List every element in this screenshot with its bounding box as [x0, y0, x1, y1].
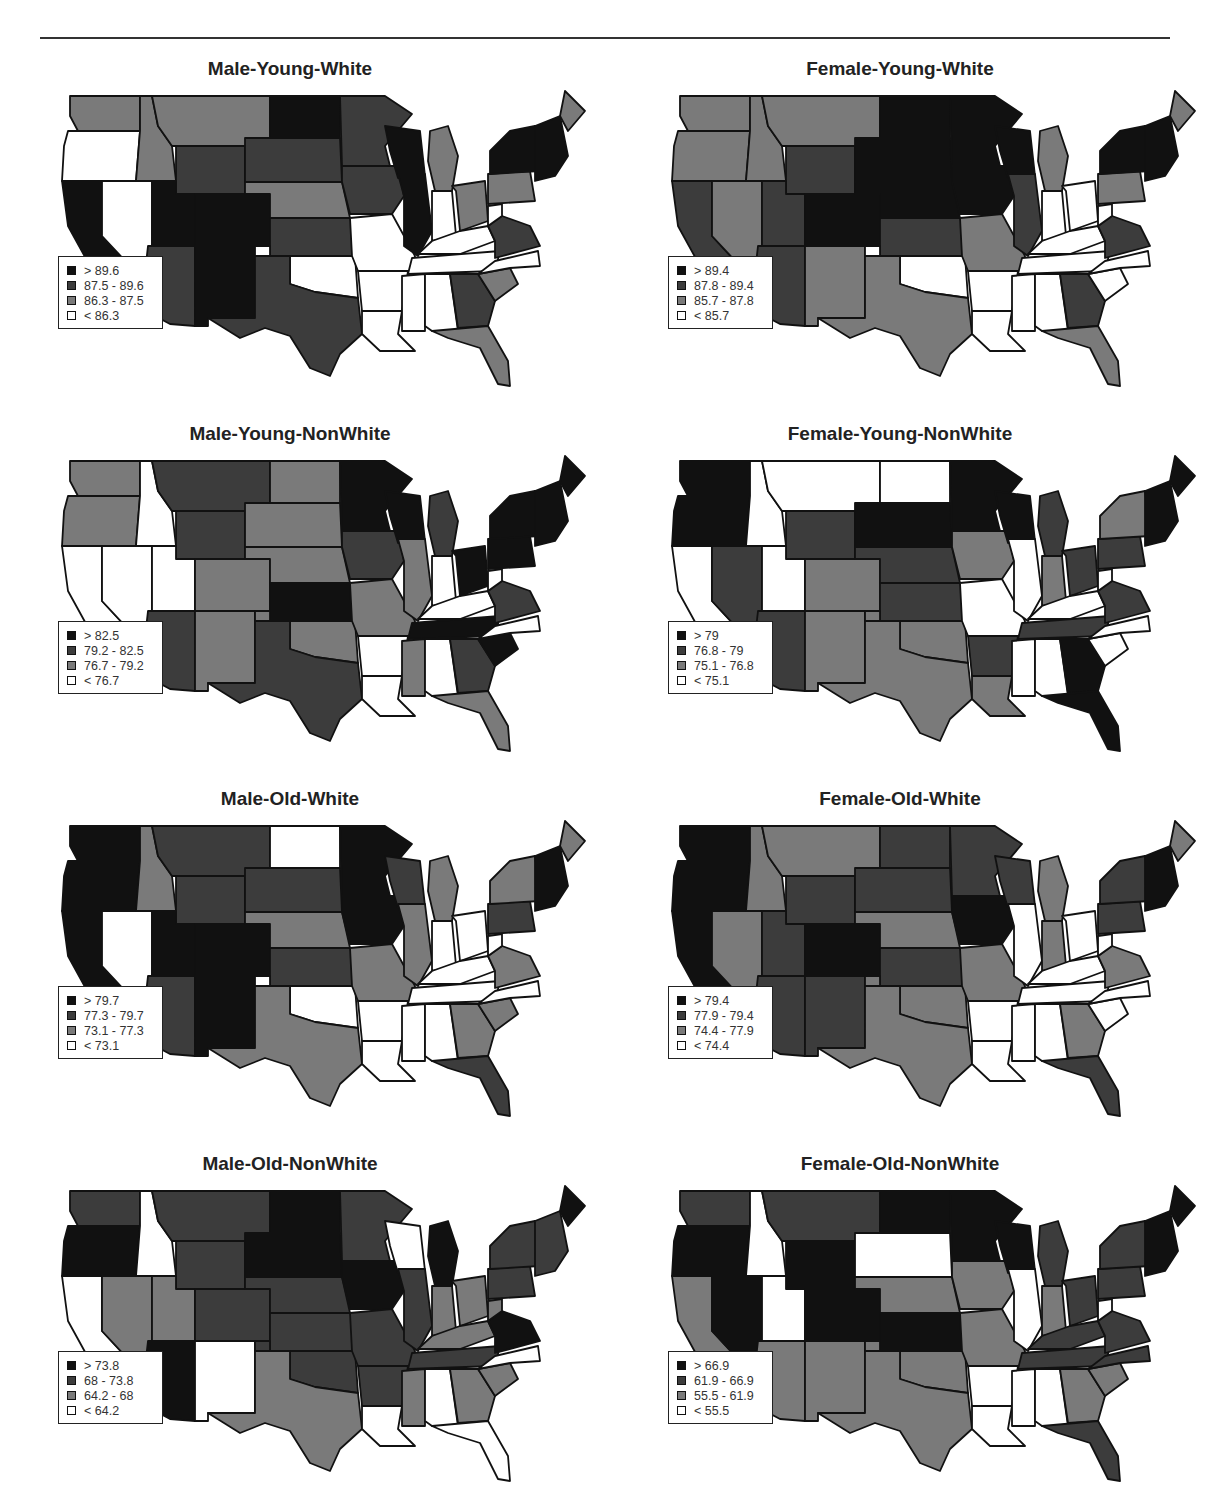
- map-title: Male-Old-White: [40, 788, 540, 810]
- state-ks: [270, 583, 352, 621]
- legend-label: 77.3 - 79.7: [84, 1009, 144, 1023]
- legend-entry: 77.3 - 79.7: [67, 1008, 162, 1023]
- state-or: [62, 1226, 140, 1276]
- legend-label: < 73.1: [84, 1039, 119, 1053]
- state-sd: [855, 1233, 952, 1277]
- legend-entry: 68 - 73.8: [67, 1373, 162, 1388]
- map-panel-female-young-white: Female-Young-White> 89.487.8 - 89.485.7 …: [650, 58, 1150, 358]
- state-pa: [488, 901, 535, 934]
- legend-entry: < 76.7: [67, 673, 162, 688]
- state-ne_us: [535, 1211, 568, 1276]
- legend-entry: 61.9 - 66.9: [677, 1373, 772, 1388]
- state-ar: [358, 1001, 408, 1041]
- state-co: [195, 559, 270, 611]
- legend-swatch-icon: [677, 661, 686, 670]
- legend-entry: 76.7 - 79.2: [67, 658, 162, 673]
- legend-label: > 79.7: [84, 994, 119, 1008]
- legend-label: > 79.4: [694, 994, 729, 1008]
- state-ks: [270, 218, 352, 256]
- state-me: [560, 456, 585, 496]
- state-oh: [1062, 1276, 1098, 1326]
- legend-label: 61.9 - 66.9: [694, 1374, 754, 1388]
- state-sd: [855, 503, 952, 547]
- legend-label: 73.1 - 77.3: [84, 1024, 144, 1038]
- legend-entry: 87.5 - 89.6: [67, 278, 162, 293]
- state-mi: [1038, 856, 1068, 921]
- state-ne_us: [1145, 846, 1178, 911]
- map-panel-female-young-nonwhite: Female-Young-NonWhite> 7976.8 - 7975.1 -…: [650, 423, 1150, 723]
- legend-label: < 85.7: [694, 309, 729, 323]
- us-choropleth-map: [40, 1181, 600, 1486]
- legend-entry: 87.8 - 89.4: [677, 278, 772, 293]
- legend-entry: > 66.9: [677, 1358, 772, 1373]
- state-fl: [1042, 691, 1120, 751]
- state-or: [62, 496, 140, 546]
- state-ar: [358, 636, 408, 676]
- state-co: [805, 1289, 880, 1341]
- legend-label: 75.1 - 76.8: [694, 659, 754, 673]
- map-legend: > 79.477.9 - 79.474.4 - 77.9< 74.4: [668, 986, 773, 1059]
- us-choropleth-map: [650, 451, 1210, 761]
- state-oh: [452, 911, 488, 961]
- state-oh: [1062, 546, 1098, 596]
- state-or: [62, 131, 140, 181]
- state-co: [805, 924, 880, 976]
- state-nm: [805, 1341, 865, 1421]
- legend-label: > 73.8: [84, 1359, 119, 1373]
- state-wy: [176, 511, 245, 559]
- state-ia: [952, 896, 1014, 944]
- legend-swatch-icon: [677, 281, 686, 290]
- us-choropleth-map: [40, 86, 600, 396]
- us-choropleth-map: [40, 816, 600, 1126]
- state-ms: [402, 1004, 425, 1061]
- state-sd: [855, 868, 952, 912]
- legend-swatch-icon: [67, 631, 76, 640]
- map-legend: > 73.868 - 73.864.2 - 68< 64.2: [58, 1351, 163, 1424]
- state-ks: [880, 218, 962, 256]
- state-sd: [245, 138, 342, 182]
- legend-swatch-icon: [677, 296, 686, 305]
- state-ia: [952, 166, 1014, 214]
- state-nm: [195, 976, 255, 1056]
- legend-label: 87.5 - 89.6: [84, 279, 144, 293]
- map-panel-female-old-nonwhite: Female-Old-NonWhite> 66.961.9 - 66.955.5…: [650, 1153, 1150, 1453]
- legend-swatch-icon: [67, 1041, 76, 1050]
- state-ny: [1100, 1221, 1150, 1269]
- state-wy: [786, 511, 855, 559]
- state-me: [1170, 1186, 1195, 1226]
- legend-swatch-icon: [677, 1361, 686, 1370]
- state-fl: [432, 1421, 510, 1481]
- state-sd: [245, 1233, 342, 1277]
- legend-swatch-icon: [677, 1376, 686, 1385]
- state-ar: [358, 1366, 408, 1406]
- legend-label: 77.9 - 79.4: [694, 1009, 754, 1023]
- state-ks: [880, 583, 962, 621]
- state-oh: [1062, 181, 1098, 231]
- legend-label: 76.8 - 79: [694, 644, 743, 658]
- state-wy: [786, 146, 855, 194]
- legend-label: > 82.5: [84, 629, 119, 643]
- state-il: [398, 539, 432, 621]
- state-ne_us: [535, 481, 568, 546]
- state-nd: [880, 1191, 950, 1233]
- state-ar: [968, 1001, 1018, 1041]
- legend-entry: 86.3 - 87.5: [67, 293, 162, 308]
- legend-swatch-icon: [677, 996, 686, 1005]
- state-oh: [452, 181, 488, 231]
- legend-label: 86.3 - 87.5: [84, 294, 144, 308]
- legend-entry: < 86.3: [67, 308, 162, 323]
- legend-label: 68 - 73.8: [84, 1374, 133, 1388]
- map-legend: > 79.777.3 - 79.773.1 - 77.3< 73.1: [58, 986, 163, 1059]
- legend-entry: > 82.5: [67, 628, 162, 643]
- map-panel-male-old-white: Male-Old-White> 79.777.3 - 79.773.1 - 77…: [40, 788, 540, 1088]
- state-or: [672, 496, 750, 546]
- state-ia: [952, 531, 1014, 579]
- legend-label: < 64.2: [84, 1404, 119, 1418]
- state-me: [1170, 456, 1195, 496]
- legend-entry: < 64.2: [67, 1403, 162, 1418]
- legend-swatch-icon: [677, 676, 686, 685]
- map-panel-male-young-white: Male-Young-White> 89.687.5 - 89.686.3 - …: [40, 58, 540, 358]
- legend-label: < 55.5: [694, 1404, 729, 1418]
- legend-swatch-icon: [67, 1026, 76, 1035]
- legend-swatch-icon: [67, 676, 76, 685]
